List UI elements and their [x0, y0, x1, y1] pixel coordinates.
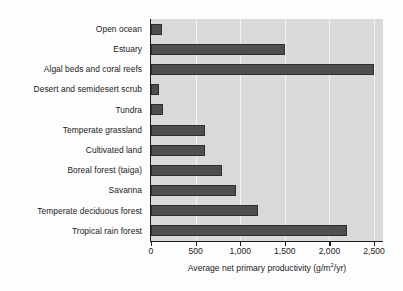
- bar: [151, 145, 205, 156]
- y-axis-tick-label: Temperate grassland: [0, 120, 146, 140]
- bar-series: [151, 19, 383, 241]
- y-axis-category-labels: Open ocean Estuary Algal beds and coral …: [0, 19, 146, 241]
- y-axis-tick-label: Tundra: [0, 100, 146, 120]
- x-axis-tick-label: 1,500: [274, 247, 296, 256]
- bar-row: [151, 221, 383, 241]
- bar-row: [151, 59, 383, 79]
- x-axis-title-before: Average net primary productivity (g/m: [188, 263, 331, 273]
- chart-figure: Open ocean Estuary Algal beds and coral …: [0, 0, 403, 291]
- bar: [151, 64, 374, 75]
- x-axis-tick-label: 1,000: [229, 247, 251, 256]
- bar: [151, 185, 236, 196]
- bar: [151, 165, 222, 176]
- y-axis-tick-label: Estuary: [0, 39, 146, 59]
- x-axis-tick-label: 2,000: [319, 247, 341, 256]
- bar: [151, 104, 163, 115]
- bar: [151, 84, 159, 95]
- y-axis-tick-label: Boreal forest (taiga): [0, 160, 146, 180]
- bar: [151, 225, 347, 236]
- bar-row: [151, 19, 383, 39]
- bar-row: [151, 120, 383, 140]
- bar-row: [151, 201, 383, 221]
- y-axis-tick-label: Tropical rain forest: [0, 221, 146, 241]
- x-axis-tick-label: 500: [188, 247, 202, 256]
- x-axis-title: Average net primary productivity (g/m2/y…: [151, 264, 383, 273]
- bar-row: [151, 80, 383, 100]
- bar-row: [151, 39, 383, 59]
- bar-row: [151, 100, 383, 120]
- x-axis-tick-label: 0: [149, 247, 154, 256]
- bar-row: [151, 181, 383, 201]
- x-axis-title-after: /yr): [334, 263, 346, 273]
- bar-row: [151, 160, 383, 180]
- y-axis-tick-label: Cultivated land: [0, 140, 146, 160]
- bar: [151, 44, 285, 55]
- bar: [151, 125, 205, 136]
- y-axis-tick-label: Savanna: [0, 181, 146, 201]
- y-axis-tick-label: Temperate deciduous forest: [0, 201, 146, 221]
- y-axis-tick-label: Open ocean: [0, 19, 146, 39]
- y-axis-line: [150, 19, 151, 242]
- y-axis-tick-label: Algal beds and coral reefs: [0, 59, 146, 79]
- bar-row: [151, 140, 383, 160]
- bar: [151, 205, 258, 216]
- plot-area: [151, 19, 383, 241]
- y-axis-tick-label: Desert and semidesert scrub: [0, 80, 146, 100]
- x-axis-line: [150, 241, 383, 242]
- bar: [151, 24, 162, 35]
- x-axis-tick-label: 2,500: [363, 247, 385, 256]
